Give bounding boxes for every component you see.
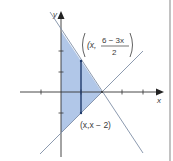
top-point-numerator: 6 − 3x (102, 36, 124, 45)
y-axis-arrow-icon (58, 11, 65, 19)
region-diagram: x y (x, 6 − 3x 2 (x,x − 2) (0, 0, 173, 161)
top-point-label: (x, 6 − 3x 2 (83, 33, 133, 57)
intersection-point (101, 91, 103, 93)
top-point-denominator: 2 (112, 48, 117, 57)
x-axis-arrow-icon (156, 89, 164, 96)
top-point-prefix: (x, (87, 40, 96, 50)
segment-bottom-point (80, 112, 82, 114)
segment-top-point (80, 60, 82, 62)
bottom-point-label: (x,x − 2) (80, 120, 111, 130)
y-axis-label: y (52, 10, 58, 19)
line-lower-boundary (40, 51, 143, 154)
x-axis-label: x (156, 96, 162, 105)
